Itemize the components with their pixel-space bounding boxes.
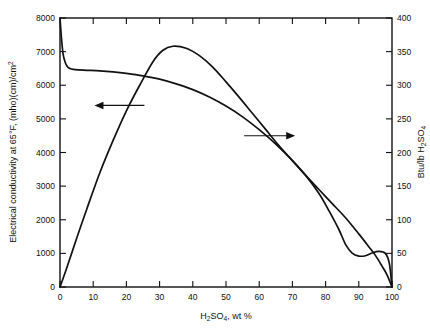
left-y-axis-tick-labels: 010002000300040005000600070008000: [36, 13, 55, 292]
left-y-tick-label: 6000: [36, 80, 55, 90]
left-y-tick-label: 1000: [36, 248, 55, 258]
x-tick-label: 10: [88, 292, 98, 302]
right-y-tick-label: 150: [397, 181, 411, 191]
left-axis-arrow-icon: [94, 102, 144, 109]
left-y-tick-label: 2000: [36, 215, 55, 225]
x-axis-tick-labels: 0102030405060708090100: [58, 292, 400, 302]
right-y-tick-label: 100: [397, 215, 411, 225]
x-tick-label: 70: [288, 292, 298, 302]
chart-canvas: 0102030405060708090100 01000200030004000…: [0, 0, 430, 328]
left-y-axis-title: Electrical conductivity at 65°F, (mho)(c…: [7, 61, 18, 243]
plot-frame: [60, 18, 392, 287]
right-y-tick-label: 400: [397, 13, 411, 23]
x-tick-label: 50: [221, 292, 231, 302]
x-tick-label: 90: [354, 292, 364, 302]
right-y-tick-label: 250: [397, 114, 411, 124]
x-tick-label: 60: [254, 292, 264, 302]
right-y-axis-ticks: [386, 18, 392, 287]
x-tick-label: 30: [155, 292, 165, 302]
left-y-tick-label: 5000: [36, 114, 55, 124]
right-y-tick-label: 50: [397, 248, 407, 258]
x-tick-label: 20: [122, 292, 132, 302]
x-axis-title: H2SO4, wt %: [200, 311, 251, 322]
left-y-tick-label: 8000: [36, 13, 55, 23]
x-axis-top-ticks: [93, 18, 359, 24]
left-y-tick-label: 0: [50, 282, 55, 292]
right-y-tick-label: 300: [397, 80, 411, 90]
chart-figure: 0102030405060708090100 01000200030004000…: [0, 0, 430, 328]
right-y-tick-label: 350: [397, 47, 411, 57]
left-y-axis-ticks: [60, 18, 66, 287]
x-axis-ticks: [60, 281, 392, 287]
right-y-axis-tick-labels: 050100150200250300350400: [397, 13, 411, 292]
x-tick-label: 100: [385, 292, 399, 302]
series-line-electrical-conductivity: [60, 18, 392, 287]
x-tick-label: 80: [321, 292, 331, 302]
right-y-axis-title: Btu/lb H2SO4: [416, 125, 427, 178]
left-y-tick-label: 3000: [36, 181, 55, 191]
right-y-tick-label: 0: [397, 282, 402, 292]
right-y-tick-label: 200: [397, 148, 411, 158]
x-tick-label: 40: [188, 292, 198, 302]
x-tick-label: 0: [58, 292, 63, 302]
left-y-tick-label: 7000: [36, 47, 55, 57]
series-line-btu-per-lb: [60, 46, 392, 287]
left-y-tick-label: 4000: [36, 148, 55, 158]
